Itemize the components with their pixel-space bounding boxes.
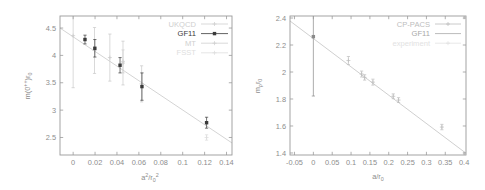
y-tick-label: 2.5 bbox=[46, 133, 56, 142]
x-tick-label: 0.08 bbox=[154, 158, 168, 167]
legend-label-experiment: experiment bbox=[392, 39, 430, 48]
data-point-marker bbox=[93, 47, 96, 50]
x-tick-label: 0.02 bbox=[88, 158, 102, 167]
chart-panel-glueball: 00.020.040.060.080.10.120.142.533.544.5a… bbox=[0, 0, 242, 190]
legend-label-mt: MT bbox=[185, 39, 196, 48]
chart-panel-rho: -0.0500.050.10.150.20.250.30.350.41.41.6… bbox=[242, 0, 485, 190]
rho-mass-scaling-plot: -0.0500.050.10.150.20.250.30.350.41.41.6… bbox=[242, 0, 485, 190]
series-ukqcd bbox=[71, 0, 143, 102]
x-tick-label: -0.05 bbox=[286, 158, 303, 167]
y-tick-label: 2.2 bbox=[276, 41, 286, 50]
x-tick-label: 0.3 bbox=[421, 158, 431, 167]
x-tick-label: 0.1 bbox=[346, 158, 356, 167]
fit-line bbox=[290, 21, 466, 153]
data-point-marker bbox=[140, 85, 143, 88]
data-point-marker bbox=[83, 38, 86, 41]
y-tick-label: 2 bbox=[282, 68, 286, 77]
x-tick-label: 0 bbox=[311, 158, 315, 167]
legend-sample-cp-pacs bbox=[435, 22, 461, 26]
y-tick-label: 3 bbox=[52, 106, 56, 115]
legend-label-cp-pacs: CP-PACS bbox=[397, 20, 430, 29]
x-tick-label: 0 bbox=[71, 158, 75, 167]
x-tick-label: 0.4 bbox=[459, 158, 469, 167]
legend-sample-mt bbox=[201, 41, 228, 45]
fit-line bbox=[60, 28, 232, 143]
legend-label-ukqcd: UKQCD bbox=[169, 20, 197, 29]
fit-line-group bbox=[290, 21, 466, 153]
y-tick-label: 4 bbox=[52, 51, 56, 60]
y-axis-title: m(0++)r0 bbox=[22, 73, 33, 100]
data-point-marker bbox=[312, 35, 315, 38]
fit-line-group bbox=[60, 28, 232, 143]
legend-label-gf11: GF11 bbox=[412, 29, 430, 38]
y-tick-label: 1.8 bbox=[276, 95, 286, 104]
y-tick-label: 4.5 bbox=[46, 24, 56, 33]
data-point-marker bbox=[118, 64, 121, 67]
legend-sample-ukqcd bbox=[201, 22, 228, 26]
x-axis-title: a/r0 bbox=[372, 172, 384, 182]
legend-sample-experiment bbox=[435, 41, 461, 45]
x-tick-label: 0.25 bbox=[400, 158, 414, 167]
series-cp-pacs bbox=[346, 56, 443, 129]
legend-marker bbox=[213, 32, 216, 35]
glueball-scaling-plot: 00.020.040.060.080.10.120.142.533.544.5a… bbox=[0, 0, 242, 190]
x-tick-label: 0.12 bbox=[197, 158, 211, 167]
data-point-marker bbox=[205, 121, 208, 124]
x-axis-title: a2/r02 bbox=[141, 172, 159, 183]
y-tick-label: 1.6 bbox=[276, 122, 286, 131]
x-tick-label: 0.14 bbox=[219, 158, 233, 167]
x-tick-label: 0.15 bbox=[363, 158, 377, 167]
legend-label-gf11: GF11 bbox=[178, 29, 196, 38]
x-tick-label: 0.06 bbox=[132, 158, 146, 167]
series-fsst bbox=[205, 135, 209, 140]
y-tick-label: 3.5 bbox=[46, 78, 56, 87]
y-tick-label: 1.4 bbox=[276, 149, 286, 158]
y-axis-title: mρr0 bbox=[253, 79, 263, 94]
x-tick-label: 0.04 bbox=[110, 158, 124, 167]
series-gf11 bbox=[312, 0, 315, 96]
axes-frame bbox=[290, 16, 466, 155]
x-tick-label: 0.1 bbox=[178, 158, 188, 167]
legend-sample-gf11 bbox=[201, 32, 228, 35]
x-tick-label: 0.05 bbox=[325, 158, 339, 167]
y-tick-label: 2.4 bbox=[276, 14, 286, 23]
legend-sample-fsst bbox=[201, 51, 228, 55]
x-tick-label: 0.35 bbox=[438, 158, 452, 167]
two-panel-figure: 00.020.040.060.080.10.120.142.533.544.5a… bbox=[0, 0, 485, 190]
legend-label-fsst: FSST bbox=[177, 48, 197, 57]
x-tick-label: 0.2 bbox=[384, 158, 394, 167]
